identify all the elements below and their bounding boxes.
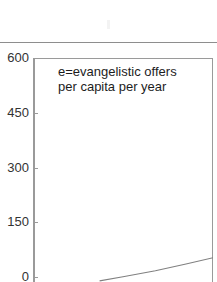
top-artifact-speck xyxy=(107,20,110,29)
chart-crop-canvas: 600 450 300 150 0 e=evangelistic offers … xyxy=(0,0,217,282)
y-tick-label-450: 450 xyxy=(0,106,29,119)
y-tick-label-150: 150 xyxy=(0,215,29,228)
y-axis-tick-labels: 600 450 300 150 0 xyxy=(0,0,29,282)
y-tick-label-600: 600 xyxy=(0,51,29,64)
y-tick-label-300: 300 xyxy=(0,161,29,174)
top-horizontal-rule xyxy=(0,42,217,43)
y-tick-label-0: 0 xyxy=(0,270,29,282)
series-line-e xyxy=(33,58,213,282)
